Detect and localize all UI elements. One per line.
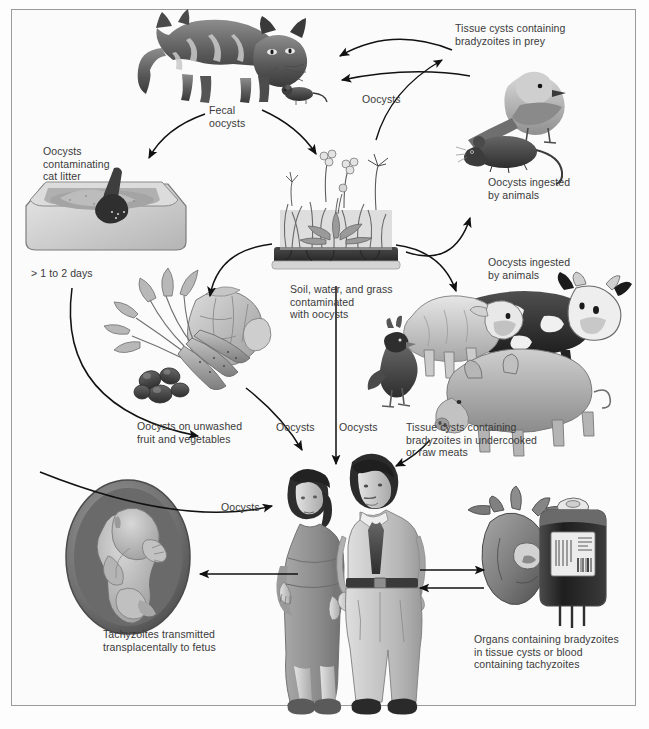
- label-organs-blood: Organs containing bradyzoites in tissue …: [474, 633, 619, 671]
- label-oocysts-mid-left: Oocysts: [276, 421, 315, 434]
- label-fecal-oocysts: Fecal oocysts: [209, 104, 245, 129]
- label-tachyzoites-fetus: Tachyzoites transmitted transplacentally…: [103, 628, 216, 653]
- label-tissue-cysts-prey: Tissue cysts containing bradyzoites in p…: [455, 22, 565, 47]
- diagram-canvas: Tissue cysts containing bradyzoites in p…: [0, 0, 649, 729]
- label-oocysts-unwashed: Oocysts on unwashed fruit and vegetables: [137, 420, 242, 445]
- label-oocysts-to-woman: Oocysts: [221, 501, 260, 514]
- label-oocysts-mid-right: Oocysts: [339, 421, 378, 434]
- label-soil-water-grass: Soil, water, and grass contaminated with…: [290, 283, 393, 321]
- label-tissue-cysts-meats: Tissue cysts containing bradyzoites in u…: [406, 421, 537, 459]
- label-oocysts-ingested-birds: Oocysts ingested by animals: [488, 176, 570, 201]
- label-oocysts-top-right: Oocysts: [362, 93, 401, 106]
- label-oocysts-ingested-farm: Oocysts ingested by animals: [488, 256, 570, 281]
- label-oocysts-cat-litter: Oocysts contaminating cat litter: [43, 145, 110, 183]
- diagram-frame: [11, 9, 636, 706]
- label-one-to-two-days: > 1 to 2 days: [31, 267, 93, 280]
